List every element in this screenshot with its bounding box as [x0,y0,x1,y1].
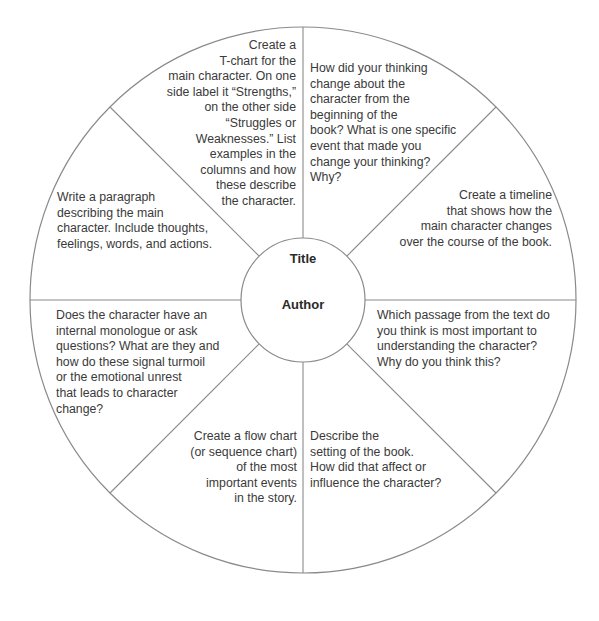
wedge-bottom-left-text: Create a flow chart (or sequence chart) … [117,429,297,507]
wedge-left-upper-text: Write a paragraph describing the main ch… [57,190,257,252]
wedge-top-right-text: How did your thinking change about the c… [310,61,510,186]
wedge-right-upper-text: Create a timeline that shows how the mai… [322,188,552,250]
wedge-right-lower-text: Which passage from the text do you think… [377,308,597,370]
wedge-bottom-right-text: Describe the setting of the book. How di… [310,429,490,491]
wedge-left-lower-text: Does the character have an internal mono… [56,308,266,417]
wedge-top-left-text: Create a T-chart for the main character.… [96,38,296,210]
center-title-label: Title [243,251,363,266]
